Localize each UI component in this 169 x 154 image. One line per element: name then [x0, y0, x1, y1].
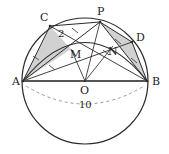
vertex-dot-P: [99, 21, 102, 24]
geometry-canvas: A B C P D M N O 2 10: [0, 0, 169, 154]
label-point-N: N: [108, 45, 118, 58]
vertex-dot-B: [146, 80, 149, 83]
vertex-dot-C: [49, 25, 52, 28]
label-length-diameter: 10: [79, 99, 92, 110]
label-point-A: A: [11, 75, 21, 88]
label-point-C: C: [40, 11, 48, 24]
label-point-O: O: [80, 84, 89, 97]
geometry-figure: A B C P D M N O 2 10: [0, 0, 169, 154]
tick-mark-CM-upper: [72, 28, 78, 33]
label-point-D: D: [136, 31, 145, 44]
tick-mark-AM: [49, 65, 55, 70]
label-point-P: P: [97, 5, 105, 18]
label-point-M: M: [70, 48, 81, 61]
vertex-dot-A: [22, 80, 25, 83]
vertex-dot-O: [84, 80, 86, 82]
label-length-CM: 2: [58, 28, 64, 39]
vertex-dot-D: [131, 41, 134, 44]
label-point-B: B: [152, 75, 160, 88]
